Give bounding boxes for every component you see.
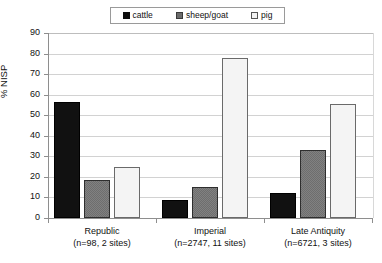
x-axis-category-republic: Republic(n=98, 2 sites): [48, 225, 156, 249]
category-sublabel: (n=2747, 11 sites): [156, 237, 264, 249]
bar-pig-imperial: [222, 58, 248, 218]
y-tick-label: 40: [14, 131, 40, 140]
y-tick-mark: [44, 54, 48, 55]
y-tick-mark: [44, 197, 48, 198]
category-name: Republic: [48, 225, 156, 237]
gray-square-icon: [176, 12, 183, 19]
bar-chart: cattle sheep/goat pig % NISP 01020304050…: [0, 0, 382, 263]
y-tick-label: 10: [14, 192, 40, 201]
chart-legend: cattle sheep/goat pig: [110, 7, 285, 24]
bar-pig-late-antiquity: [330, 104, 356, 218]
x-tick-mark: [372, 219, 373, 223]
x-tick-mark: [48, 219, 49, 223]
black-square-icon: [123, 12, 130, 19]
legend-label-pig: pig: [261, 11, 272, 20]
legend-label-sheep-goat: sheep/goat: [186, 11, 228, 20]
y-tick-mark: [44, 74, 48, 75]
y-tick-mark: [44, 95, 48, 96]
legend-label-cattle: cattle: [133, 11, 153, 20]
y-axis-title: % NISP: [0, 65, 9, 98]
gridline: [49, 54, 373, 55]
legend-item-pig: pig: [251, 11, 272, 20]
y-tick-mark: [44, 156, 48, 157]
y-tick-mark: [44, 115, 48, 116]
x-axis-category-imperial: Imperial(n=2747, 11 sites): [156, 225, 264, 249]
legend-item-cattle: cattle: [123, 11, 153, 20]
bar-cattle-imperial: [162, 200, 188, 218]
bar-sheep-goat-republic: [84, 180, 110, 218]
y-tick-mark: [44, 177, 48, 178]
category-name: Imperial: [156, 225, 264, 237]
x-tick-mark: [264, 219, 265, 223]
y-tick-label: 30: [14, 151, 40, 160]
x-axis-category-late-antiquity: Late Antiquity(n=6721, 3 sites): [264, 225, 372, 249]
gridline: [49, 95, 373, 96]
plot-right-edge: [373, 33, 374, 218]
y-tick-mark: [44, 33, 48, 34]
y-tick-label: 80: [14, 49, 40, 58]
y-tick-label: 20: [14, 172, 40, 181]
legend-item-sheep-goat: sheep/goat: [176, 11, 228, 20]
gridline: [49, 115, 373, 116]
x-tick-mark: [156, 219, 157, 223]
gridline: [49, 136, 373, 137]
white-square-icon: [251, 12, 258, 19]
y-tick-label: 60: [14, 90, 40, 99]
bar-cattle-late-antiquity: [270, 193, 296, 218]
bar-sheep-goat-imperial: [192, 187, 218, 218]
gridline: [49, 33, 373, 34]
bar-cattle-republic: [54, 102, 80, 218]
category-name: Late Antiquity: [264, 225, 372, 237]
bar-sheep-goat-late-antiquity: [300, 150, 326, 218]
bar-pig-republic: [114, 167, 140, 218]
y-tick-label: 70: [14, 69, 40, 78]
category-sublabel: (n=6721, 3 sites): [264, 237, 372, 249]
y-tick-label: 90: [14, 28, 40, 37]
plot-area: [48, 33, 373, 219]
gridline: [49, 74, 373, 75]
y-tick-mark: [44, 136, 48, 137]
category-sublabel: (n=98, 2 sites): [48, 237, 156, 249]
y-tick-label: 50: [14, 110, 40, 119]
y-tick-label: 0: [14, 213, 40, 222]
